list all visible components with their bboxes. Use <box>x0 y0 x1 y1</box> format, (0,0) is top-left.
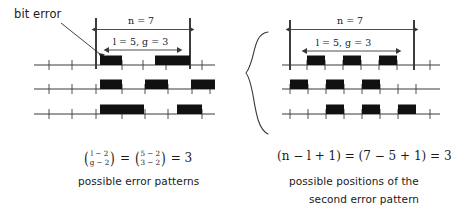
bit-error-label: bit error <box>14 9 61 21</box>
pulse <box>191 80 215 90</box>
left-row-2 <box>34 80 215 95</box>
binom-bottom-numeric: 3 − 2 <box>140 158 160 167</box>
right-formula: (n − l + 1) = (7 − 5 + 1) = 3 <box>277 150 452 162</box>
left-dimension-lg-label: l = 5, g = 3 <box>113 37 168 47</box>
pulse <box>362 80 380 90</box>
pulse <box>100 105 144 115</box>
right-formula-caption-line-1: possible positions of the <box>289 176 419 187</box>
pulse <box>290 80 308 90</box>
left-formula-caption: possible error patterns <box>78 176 199 187</box>
pulse <box>326 80 344 90</box>
paren-close-icon: ) <box>110 150 115 167</box>
right-row-2 <box>282 80 440 95</box>
pulse <box>100 80 122 90</box>
pulse <box>343 56 361 66</box>
paren-open-icon: ( <box>135 150 140 167</box>
pulse <box>326 105 344 115</box>
left-formula: (l − 2g − 2) = (5 − 23 − 2) = 3 <box>83 150 192 167</box>
binomial-numeric: (5 − 23 − 2) <box>134 150 167 167</box>
left-row-3 <box>34 105 215 120</box>
pulse <box>155 56 190 66</box>
right-dimension-n-label: n = 7 <box>337 16 363 26</box>
pulse <box>307 56 325 66</box>
right-row-3 <box>282 105 440 120</box>
binom-bottom-symbolic: g − 2 <box>90 158 110 167</box>
binomial-symbolic: (l − 2g − 2) <box>83 150 116 167</box>
right-row-1 <box>282 56 440 71</box>
paren-open-icon: ( <box>84 150 89 167</box>
left-dimension-n-label: n = 7 <box>128 16 154 26</box>
grouping-brace <box>246 32 268 134</box>
pulse <box>177 105 202 115</box>
pulse <box>379 56 397 66</box>
pulse <box>362 105 380 115</box>
right-dimension-lg-label: l = 5, g = 3 <box>316 38 371 48</box>
left-formula-result: 3 <box>185 151 193 165</box>
pulse <box>145 80 168 90</box>
left-panel <box>34 18 215 119</box>
right-panel <box>282 20 440 119</box>
equals-sign-2: = <box>171 151 181 165</box>
paren-close-icon: ) <box>161 150 166 167</box>
pulse <box>100 56 122 66</box>
equals-sign-1: = <box>120 151 130 165</box>
pulse <box>398 105 416 115</box>
right-formula-caption-line-2: second error pattern <box>309 194 419 205</box>
left-row-1 <box>34 56 215 71</box>
